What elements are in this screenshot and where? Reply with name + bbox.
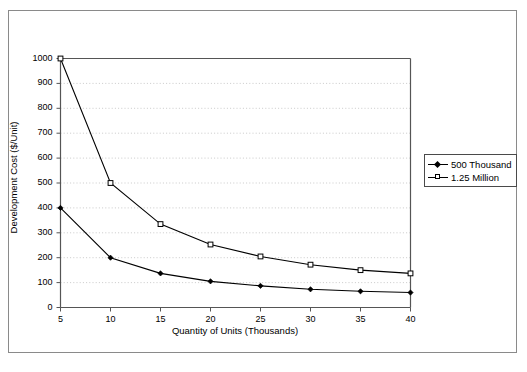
y-tick-label: 0 [19, 302, 53, 312]
filled-diamond-marker-icon [428, 160, 448, 170]
x-axis-title: Quantity of Units (Thousands) [60, 325, 410, 336]
data-point-marker-square [158, 222, 163, 227]
x-tick-label: 30 [296, 314, 326, 324]
y-tick-label: 1000 [19, 53, 53, 63]
data-point-marker-diamond [258, 283, 263, 288]
y-tick-label: 700 [19, 127, 53, 137]
x-tick-label: 35 [346, 314, 376, 324]
legend-item-500-thousand: 500 Thousand [428, 158, 513, 171]
x-tick-label: 15 [146, 314, 176, 324]
y-tick-label: 200 [19, 252, 53, 262]
x-tick-label: 40 [396, 314, 426, 324]
data-point-marker-diamond [358, 289, 363, 294]
x-tick-label: 20 [196, 314, 226, 324]
x-tick-label: 5 [46, 314, 76, 324]
data-point-marker-square [308, 262, 313, 267]
data-point-marker-square [108, 181, 113, 186]
data-point-marker-square [408, 271, 413, 276]
x-tick-label: 10 [96, 314, 126, 324]
data-point-marker-square [358, 268, 363, 273]
y-tick-label: 300 [19, 227, 53, 237]
series-markers [58, 56, 413, 295]
y-tick-label: 500 [19, 177, 53, 187]
data-point-marker-diamond [308, 287, 313, 292]
open-square-marker-icon [428, 173, 448, 183]
y-tick-label: 400 [19, 202, 53, 212]
x-tick-label: 25 [246, 314, 276, 324]
data-point-marker-square [258, 254, 263, 259]
y-axis-title: Development Cost ($/Unit) [8, 103, 19, 253]
y-tick-label: 900 [19, 77, 53, 87]
y-tick-label: 100 [19, 277, 53, 287]
data-point-marker-diamond [408, 290, 413, 295]
legend-label: 1.25 Million [451, 172, 499, 183]
legend-label: 500 Thousand [451, 159, 512, 170]
y-tick-label: 600 [19, 152, 53, 162]
data-point-marker-square [208, 242, 213, 247]
data-point-marker-square [58, 56, 63, 61]
chart-legend: 500 Thousand 1.25 Million [424, 154, 517, 187]
legend-item-1-25-million: 1.25 Million [428, 171, 513, 184]
y-tick-label: 800 [19, 102, 53, 112]
gridlines [61, 83, 411, 307]
data-point-marker-diamond [208, 279, 213, 284]
series-line-1 [61, 59, 411, 274]
data-point-marker-diamond [158, 271, 163, 276]
